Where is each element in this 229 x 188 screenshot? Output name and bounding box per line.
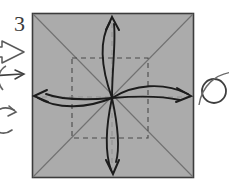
step-number: 3 <box>14 11 25 36</box>
circle-loop-tail <box>199 72 229 105</box>
thin-arrow-shaft <box>0 74 22 76</box>
origami-diagram: 3 <box>0 0 229 188</box>
thin-arrow-icon <box>0 70 24 79</box>
curved-arrow-lower-icon <box>0 106 16 133</box>
curved-arrow-lower-body <box>0 108 14 133</box>
hollow-arrow-icon <box>0 41 24 63</box>
arc-upper-icon <box>0 66 6 90</box>
diagram-canvas: 3 <box>0 0 229 188</box>
left-margin-marks: 3 <box>0 11 25 133</box>
right-margin-marks <box>199 72 229 105</box>
circle-loop-icon <box>202 79 226 103</box>
